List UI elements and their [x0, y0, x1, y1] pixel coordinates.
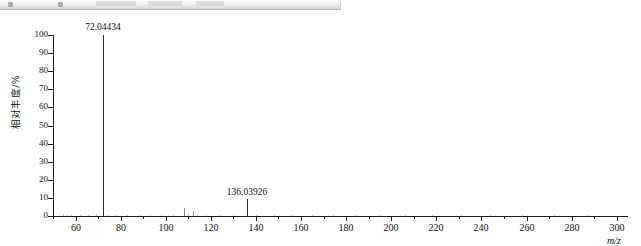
x-tick-label: 180	[326, 222, 366, 233]
spectrum-peak	[127, 215, 128, 216]
x-tick-label: 60	[56, 222, 96, 233]
y-tick	[48, 180, 53, 181]
spectrum-peak	[292, 215, 293, 216]
y-axis-line	[53, 35, 54, 217]
x-tick-label: 220	[416, 222, 456, 233]
y-tick-label: 70	[2, 84, 48, 93]
spectrum-peak	[206, 215, 207, 216]
x-tick-label: 160	[281, 222, 321, 233]
x-tick-major	[301, 216, 302, 221]
x-tick-major	[617, 216, 618, 221]
spectrum-peak	[188, 214, 189, 216]
x-tick-minor	[143, 216, 144, 219]
x-tick-minor	[98, 216, 99, 219]
spectrum-peak	[173, 215, 174, 216]
spectrum-peak	[461, 215, 462, 216]
x-tick-minor	[53, 216, 54, 219]
x-tick-label: 300	[597, 222, 637, 233]
spectrum-peak	[233, 215, 234, 216]
x-tick-label: 140	[236, 222, 276, 233]
y-tick	[48, 198, 53, 199]
spectrum-peak	[380, 215, 381, 216]
spectrum-peak	[355, 215, 356, 216]
x-tick-minor	[369, 216, 370, 219]
x-tick-major	[391, 216, 392, 221]
x-tick-major	[346, 216, 347, 221]
y-tick	[48, 71, 53, 72]
spectrum-plot-area: 相对丰度/% m/z 0102030405060708090100 608010…	[0, 9, 641, 242]
x-tick-minor	[504, 216, 505, 219]
x-tick-major	[436, 216, 437, 221]
x-tick-minor	[324, 216, 325, 219]
x-tick-major	[211, 216, 212, 221]
x-tick-label: 200	[371, 222, 411, 233]
spectrum-peak	[80, 215, 81, 216]
x-tick-major	[76, 216, 77, 221]
spectrum-peak	[63, 214, 64, 216]
y-tick-label: 50	[2, 121, 48, 130]
spectrum-peak	[116, 215, 117, 216]
x-tick-major	[166, 216, 167, 221]
y-tick-label: 20	[2, 175, 48, 184]
spectrum-peak	[405, 215, 406, 216]
x-tick-major	[121, 216, 122, 221]
spectrum-peak	[193, 211, 194, 216]
spectrum-peak	[150, 215, 151, 216]
x-tick-minor	[414, 216, 415, 219]
y-tick-label: 90	[2, 48, 48, 57]
x-tick-minor	[549, 216, 550, 219]
spectrum-peak	[88, 215, 89, 216]
spectrum-peak	[161, 215, 162, 216]
peak-annotation-label: 136.03926	[207, 187, 287, 197]
x-tick-major	[572, 216, 573, 221]
spectrum-peak	[197, 214, 198, 216]
spectrum-peak	[587, 215, 588, 216]
y-tick	[48, 35, 53, 36]
spectrum-peak	[522, 215, 523, 216]
y-tick-label: 30	[2, 157, 48, 166]
y-tick-label: 10	[2, 193, 48, 202]
spectrum-peak	[554, 215, 555, 216]
spectrum-peak	[103, 35, 104, 216]
y-tick-label: 100	[2, 30, 48, 39]
x-tick-minor	[594, 216, 595, 219]
x-tick-major	[527, 216, 528, 221]
x-tick-minor	[188, 216, 189, 219]
y-tick	[48, 144, 53, 145]
y-tick	[48, 126, 53, 127]
toolbar-icon-2[interactable]	[58, 2, 63, 7]
x-axis-title: m/z	[596, 235, 632, 246]
spectrum-peak	[247, 199, 248, 216]
x-tick-minor	[278, 216, 279, 219]
y-tick	[48, 107, 53, 108]
spectrum-peak	[256, 215, 257, 216]
x-tick-label: 260	[507, 222, 547, 233]
x-tick-minor	[459, 216, 460, 219]
x-tick-label: 280	[552, 222, 592, 233]
spectrum-peak	[96, 214, 97, 216]
x-tick-major	[481, 216, 482, 221]
spectrum-peak	[333, 215, 334, 216]
x-tick-label: 240	[461, 222, 501, 233]
spectrum-peak	[184, 208, 185, 216]
y-tick-label: 40	[2, 139, 48, 148]
spectrum-peak	[108, 215, 109, 216]
x-tick-label: 100	[146, 222, 186, 233]
spectrum-peak	[220, 215, 221, 216]
x-tick-major	[256, 216, 257, 221]
y-tick-label: 80	[2, 66, 48, 75]
toolbar-text-fragment-1	[96, 1, 136, 6]
x-tick-minor	[233, 216, 234, 219]
spectrum-peak	[312, 215, 313, 216]
spectrum-peak	[71, 215, 72, 216]
toolbar-text-fragment-3	[196, 1, 224, 6]
toolbar-icon-1[interactable]	[8, 2, 13, 7]
y-tick	[48, 89, 53, 90]
y-tick-label: 0	[2, 211, 48, 220]
toolbar-text-fragment-2	[148, 1, 182, 6]
y-tick	[48, 162, 53, 163]
spectrum-peak	[139, 215, 140, 216]
y-tick-label: 60	[2, 102, 48, 111]
x-axis-line	[53, 216, 628, 217]
